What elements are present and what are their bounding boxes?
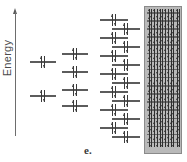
energy-level [62,86,88,94]
spin-down-arrow-icon [75,84,78,96]
electron-spin-pair [40,90,47,102]
energy-axis-label: Energy [1,28,13,88]
electron-spin-pair [72,84,79,96]
energy-level [30,92,56,100]
energy-level [62,50,88,58]
continuum-band-panel [144,6,182,154]
energy-level [30,58,56,66]
spin-down-arrow-icon [126,131,129,143]
electron-spin-pair [40,56,47,68]
electron-spin-pair [123,131,130,143]
electron-spin-pair [72,66,79,78]
energy-band-diagram: Energy e. [0,0,187,162]
spin-down-arrow-icon [43,90,46,102]
axis-shaft [15,12,16,136]
band-electron-spin-pair [176,138,181,147]
spin-down-arrow-icon [75,100,78,112]
spin-down-arrow-icon [75,48,78,60]
electron-spin-pair [72,100,79,112]
energy-axis [14,8,17,136]
electron-spin-pair [72,48,79,60]
energy-level [62,68,88,76]
spin-down-arrow-icon [179,138,181,147]
energy-level [112,133,140,141]
spin-down-arrow-icon [43,56,46,68]
panel-caption: e. [84,144,92,156]
spin-down-arrow-icon [75,66,78,78]
energy-level [62,102,88,110]
